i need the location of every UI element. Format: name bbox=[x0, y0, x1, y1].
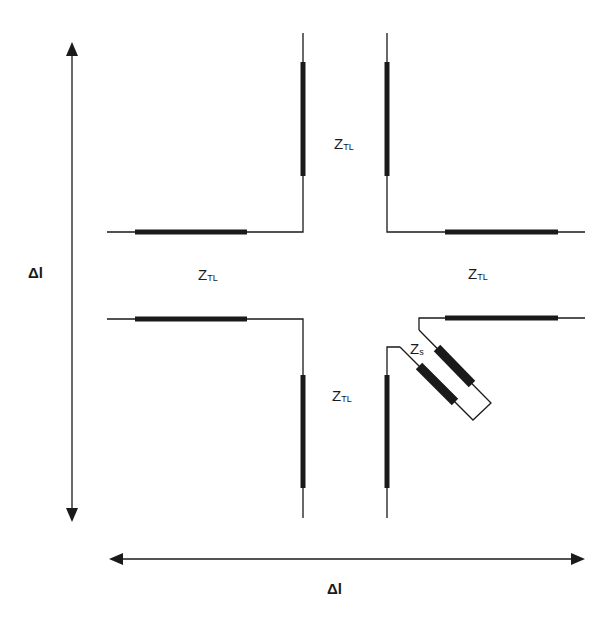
diagram-canvas bbox=[0, 0, 610, 625]
label-z-stub: Zs bbox=[410, 340, 424, 357]
label-delta-vertical: Δl bbox=[28, 264, 43, 281]
vertical-dimension-arrow bbox=[66, 42, 78, 522]
label-z-bottom: ZTL bbox=[332, 387, 352, 404]
top-arm bbox=[107, 33, 585, 232]
right-arm bbox=[419, 232, 585, 330]
label-z-top: ZTL bbox=[334, 135, 354, 152]
label-z-left: ZTL bbox=[198, 266, 218, 283]
label-z-right: ZTL bbox=[468, 265, 488, 282]
horizontal-dimension-arrow bbox=[109, 553, 585, 565]
bottom-arm bbox=[303, 347, 400, 518]
label-delta-horizontal: Δl bbox=[327, 580, 342, 597]
